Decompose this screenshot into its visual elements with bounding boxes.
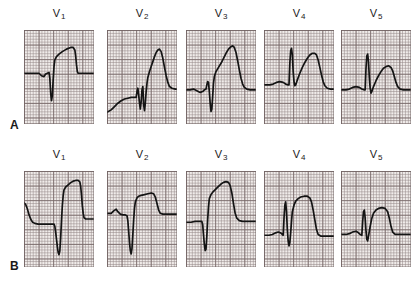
ecg-panel-a-v1: V1 (24, 8, 94, 124)
ecg-grid-b-v2 (107, 171, 177, 267)
ecg-trace-b-v3 (186, 171, 256, 267)
lead-label-a-v3: V3 (186, 8, 256, 20)
lead-label-a-v5: V5 (341, 8, 411, 20)
ecg-grid-a-v5 (341, 30, 411, 124)
ecg-trace-a-v3 (186, 30, 256, 124)
ecg-panel-a-v4: V4 (264, 8, 334, 124)
ecg-trace-a-v2 (107, 30, 177, 124)
lead-label-b-v2: V2 (107, 149, 177, 161)
ecg-trace-b-v5 (341, 171, 411, 267)
ecg-trace-b-v2 (107, 171, 177, 267)
ecg-panel-a-v3: V3 (186, 8, 256, 124)
ecg-panel-a-v2: V2 (107, 8, 177, 124)
ecg-panel-b-v3: V3 (186, 149, 256, 267)
lead-label-b-v1: V1 (24, 149, 94, 161)
ecg-panel-b-v4: V4 (264, 149, 334, 267)
lead-label-b-v4: V4 (264, 149, 334, 161)
lead-label-a-v4: V4 (264, 8, 334, 20)
lead-label-a-v2: V2 (107, 8, 177, 20)
ecg-panel-b-v1: V1 (24, 149, 94, 267)
lead-label-b-v5: V5 (341, 149, 411, 161)
ecg-panel-a-v5: V5 (341, 8, 411, 124)
ecg-grid-a-v3 (186, 30, 256, 124)
row-label-b: B (10, 259, 19, 273)
ecg-grid-b-v5 (341, 171, 411, 267)
ecg-grid-b-v3 (186, 171, 256, 267)
ecg-grid-a-v1 (24, 30, 94, 124)
ecg-grid-b-v1 (24, 171, 94, 267)
ecg-trace-b-v1 (24, 171, 94, 267)
ecg-figure: A V1 V2 V3 (0, 0, 415, 283)
ecg-trace-b-v4 (264, 171, 334, 267)
lead-label-a-v1: V1 (24, 8, 94, 20)
ecg-panel-b-v5: V5 (341, 149, 411, 267)
ecg-grid-a-v2 (107, 30, 177, 124)
ecg-row-a: A V1 V2 V3 (0, 0, 415, 141)
ecg-trace-a-v1 (24, 30, 94, 124)
ecg-grid-a-v4 (264, 30, 334, 124)
ecg-panel-b-v2: V2 (107, 149, 177, 267)
lead-label-b-v3: V3 (186, 149, 256, 161)
ecg-grid-b-v4 (264, 171, 334, 267)
ecg-trace-a-v5 (341, 30, 411, 124)
ecg-row-b: B V1 V2 V3 (0, 141, 415, 283)
ecg-trace-a-v4 (264, 30, 334, 124)
row-label-a: A (10, 118, 19, 132)
